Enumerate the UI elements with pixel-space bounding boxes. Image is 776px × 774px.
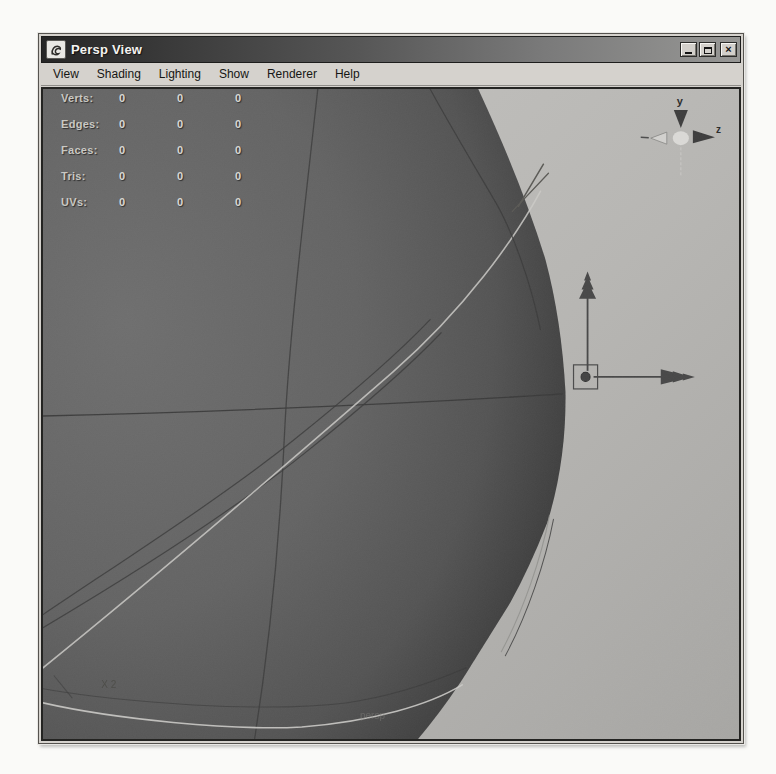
menu-shading[interactable]: Shading [88, 65, 150, 84]
menu-renderer[interactable]: Renderer [258, 65, 326, 84]
close-icon: × [725, 43, 731, 56]
menu-lighting[interactable]: Lighting [150, 65, 210, 84]
close-button[interactable]: × [720, 42, 737, 57]
maya-logo-icon [46, 40, 66, 59]
minimize-icon [685, 52, 692, 54]
persp-view-window: Persp View × View Shading Lighting Show … [38, 33, 744, 744]
maximize-button[interactable] [699, 42, 716, 57]
minimize-button[interactable] [680, 42, 697, 57]
viewport-canvas[interactable]: y z X 2 persp [43, 89, 739, 739]
menu-help[interactable]: Help [326, 65, 369, 84]
title-bar[interactable]: Persp View × [41, 36, 741, 63]
perspective-viewport[interactable]: y z X 2 persp Verts: 0 0 0 [41, 87, 741, 741]
grain-overlay [43, 89, 739, 739]
menu-view[interactable]: View [44, 65, 88, 84]
maximize-icon [704, 47, 712, 54]
menu-bar: View Shading Lighting Show Renderer Help [41, 63, 741, 86]
window-title: Persp View [71, 42, 680, 57]
menu-show[interactable]: Show [210, 65, 258, 84]
